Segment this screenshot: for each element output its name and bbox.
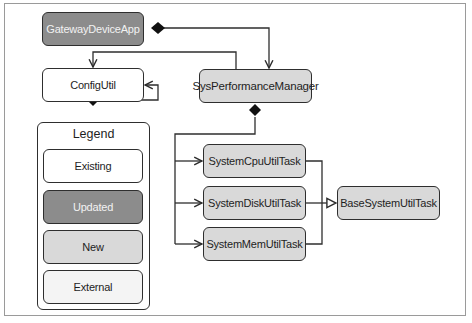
legend-title: Legend: [38, 127, 149, 141]
legend-item-existing: Existing: [43, 149, 143, 183]
node-system-disk-util-task: SystemDiskUtilTask: [203, 186, 306, 220]
legend: Legend Existing Updated New External: [37, 122, 150, 310]
node-config-util: ConfigUtil: [42, 68, 144, 102]
node-system-mem-util-task: SystemMemUtilTask: [203, 227, 306, 261]
node-gateway-device-app: GatewayDeviceApp: [42, 12, 144, 46]
node-sys-performance-manager: SysPerformanceManager: [199, 69, 312, 103]
legend-item-external: External: [43, 270, 143, 304]
legend-item-new: New: [43, 230, 143, 264]
node-base-system-util-task: BaseSystemUtilTask: [337, 186, 440, 220]
legend-item-updated: Updated: [43, 190, 143, 224]
node-system-cpu-util-task: SystemCpuUtilTask: [203, 144, 306, 178]
